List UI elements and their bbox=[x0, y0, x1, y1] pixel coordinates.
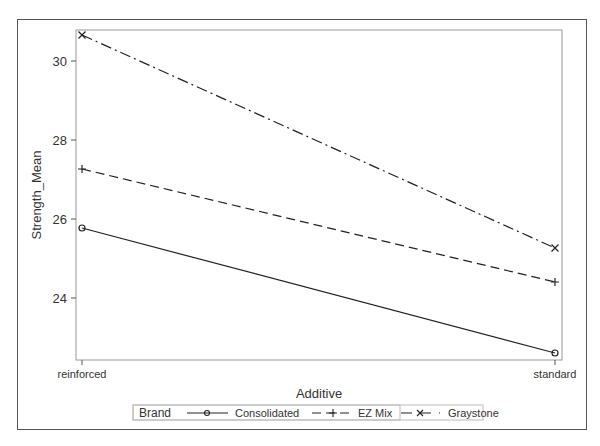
series-ezmix-line bbox=[82, 169, 555, 282]
y-axis-title: Strength_Mean bbox=[29, 151, 44, 240]
plus-marker bbox=[329, 409, 337, 417]
legend-title: Brand bbox=[139, 406, 171, 420]
y-tick-label: 30 bbox=[53, 54, 67, 69]
plus-marker bbox=[551, 278, 559, 286]
x-axis-title: Additive bbox=[296, 386, 342, 401]
x-marker bbox=[552, 245, 559, 252]
x-tick-label: reinforced bbox=[58, 368, 107, 380]
legend-item-consolidated: Consolidated bbox=[235, 407, 299, 419]
plot-area bbox=[76, 30, 562, 360]
series-consolidated-line bbox=[82, 228, 555, 353]
line-chart: 30 28 26 24 reinforced standard Additive… bbox=[0, 0, 600, 446]
y-axis-ticks bbox=[71, 61, 555, 365]
y-tick-label: 26 bbox=[53, 212, 67, 227]
x-marker bbox=[79, 32, 86, 39]
plus-marker bbox=[78, 165, 86, 173]
y-tick-label: 24 bbox=[53, 291, 67, 306]
legend-item-graystone: Graystone bbox=[448, 407, 499, 419]
legend-item-ezmix: EZ Mix bbox=[358, 407, 393, 419]
legend: Brand Consolidated EZ Mix Graystone bbox=[133, 405, 499, 420]
y-tick-label: 28 bbox=[53, 133, 67, 148]
series-graystone-line bbox=[82, 35, 555, 248]
x-tick-label: standard bbox=[534, 368, 577, 380]
